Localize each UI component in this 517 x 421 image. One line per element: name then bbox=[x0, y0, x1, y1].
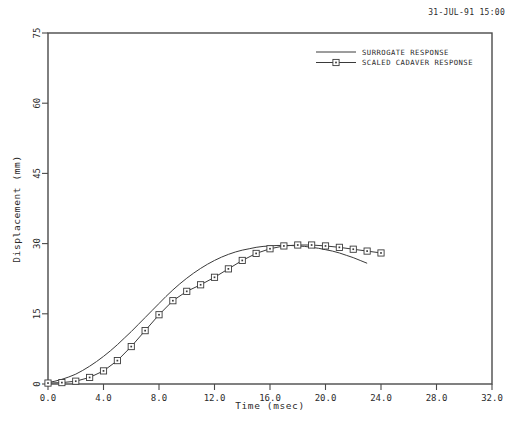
data-point-center bbox=[269, 248, 271, 250]
legend-label: SCALED CADAVER RESPONSE bbox=[362, 58, 473, 67]
plot-frame bbox=[48, 33, 492, 384]
x-tick-label: 32.0 bbox=[481, 393, 503, 403]
x-tick-label: 28.0 bbox=[426, 393, 448, 403]
x-axis-title: Time (msec) bbox=[235, 400, 305, 411]
series-line bbox=[48, 245, 367, 382]
data-point-center bbox=[255, 253, 257, 255]
data-point-center bbox=[172, 300, 174, 302]
data-point-center bbox=[283, 245, 285, 247]
data-point-center bbox=[352, 248, 354, 250]
figure-canvas: 31-JUL-91 15:00 0.04.08.012.016.020.024.… bbox=[0, 0, 517, 421]
series-1 bbox=[48, 245, 367, 382]
data-point-center bbox=[144, 330, 146, 332]
data-point-center bbox=[241, 260, 243, 262]
displacement-vs-time-plot: 0.04.08.012.016.020.024.028.032.0 015304… bbox=[0, 0, 517, 421]
data-point-center bbox=[311, 244, 313, 246]
x-tick-label: 4.0 bbox=[95, 393, 111, 403]
y-axis-ticks bbox=[42, 33, 48, 384]
y-tick-label: 75 bbox=[32, 28, 42, 39]
data-point-center bbox=[103, 370, 105, 372]
y-axis-tick-labels: 01530456075 bbox=[32, 28, 42, 387]
y-tick-label: 15 bbox=[32, 308, 42, 319]
y-tick-label: 60 bbox=[32, 98, 42, 109]
legend-marker-center bbox=[335, 62, 337, 64]
data-point-center bbox=[339, 246, 341, 248]
y-tick-label: 30 bbox=[32, 238, 42, 249]
x-tick-label: 20.0 bbox=[315, 393, 337, 403]
legend-entry: SURROGATE RESPONSE bbox=[316, 48, 449, 57]
y-tick-label: 0 bbox=[32, 381, 42, 386]
data-point-center bbox=[75, 380, 77, 382]
legend-label: SURROGATE RESPONSE bbox=[362, 48, 449, 57]
data-point-center bbox=[214, 276, 216, 278]
data-point-center bbox=[228, 268, 230, 270]
data-point-center bbox=[186, 290, 188, 292]
legend-entry: SCALED CADAVER RESPONSE bbox=[316, 58, 473, 67]
data-point-center bbox=[47, 382, 49, 384]
data-series-layer bbox=[45, 242, 384, 386]
x-tick-label: 0.0 bbox=[40, 393, 56, 403]
y-tick-label: 45 bbox=[32, 168, 42, 179]
data-point-center bbox=[89, 377, 91, 379]
data-point-center bbox=[158, 314, 160, 316]
data-point-center bbox=[200, 284, 202, 286]
series-2 bbox=[45, 242, 384, 386]
data-point-center bbox=[130, 346, 132, 348]
data-point-center bbox=[380, 252, 382, 254]
data-point-center bbox=[366, 250, 368, 252]
data-point-center bbox=[117, 360, 119, 362]
series-line bbox=[48, 245, 381, 383]
chart-legend: SURROGATE RESPONSESCALED CADAVER RESPONS… bbox=[316, 48, 473, 68]
x-axis-ticks bbox=[48, 384, 492, 390]
y-axis-title: Displacement (mm) bbox=[11, 155, 22, 262]
data-point-center bbox=[61, 382, 63, 384]
data-point-center bbox=[297, 244, 299, 246]
x-tick-label: 12.0 bbox=[204, 393, 226, 403]
x-tick-label: 8.0 bbox=[151, 393, 167, 403]
data-point-center bbox=[325, 245, 327, 247]
x-tick-label: 24.0 bbox=[370, 393, 392, 403]
